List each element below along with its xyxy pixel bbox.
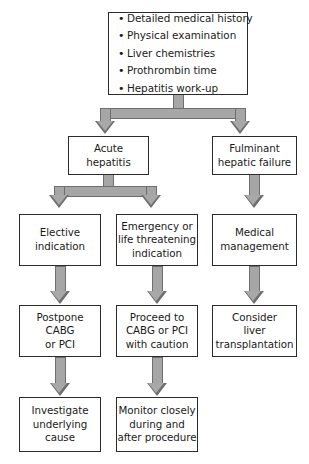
fulminant-hepatic-failure-box[interactable]: Fulminant hepatic failure xyxy=(212,136,297,175)
acute-hepatitis-line: hepatitis xyxy=(86,156,130,170)
workup-bullet-label: Liver chemistries xyxy=(127,45,215,61)
arrowhead-to-transplant xyxy=(244,291,264,304)
workup-bullet-label: Detailed medical history xyxy=(127,10,253,26)
medical-management-line: management xyxy=(220,240,288,254)
arrowhead-to-acute-hepatitis xyxy=(95,121,115,134)
fulminant-failure-line: hepatic failure xyxy=(218,156,291,170)
arrowhead-to-medical-management xyxy=(244,195,264,208)
initial-workup-box[interactable]: • Detailed medical history • Physical ex… xyxy=(108,12,248,95)
investigate-line: cause xyxy=(45,431,75,445)
emergency-line: life threatening xyxy=(118,233,196,247)
proceed-line: Proceed to xyxy=(130,311,184,325)
elective-indication-box[interactable]: Elective indication xyxy=(19,214,101,266)
bullet-dot-icon: • xyxy=(118,28,127,44)
monitor-closely-box[interactable]: Monitor closely during and after procedu… xyxy=(116,397,198,452)
connector-workup-left-drop xyxy=(100,108,111,122)
connector-proceed-to-monitor xyxy=(152,357,163,385)
emergency-indication-box[interactable]: Emergency or life threatening indication xyxy=(116,214,198,266)
transplant-line: liver xyxy=(243,324,265,338)
arrowhead-to-postpone xyxy=(50,291,70,304)
bullet-dot-icon: • xyxy=(118,63,127,79)
connector-postpone-to-investigate xyxy=(55,357,66,385)
connector-fulminant-to-medical xyxy=(249,174,260,196)
workup-bullet-label: Prothrombin time xyxy=(127,62,217,78)
emergency-line: indication xyxy=(132,247,182,261)
connector-emergency-to-proceed xyxy=(152,266,163,292)
connector-workup-split-bar xyxy=(100,108,246,119)
workup-bullet-item: • Hepatitis work-up xyxy=(118,80,218,97)
investigate-underlying-cause-box[interactable]: Investigate underlying cause xyxy=(19,397,101,452)
bullet-dot-icon: • xyxy=(118,81,127,97)
arrowhead-to-emergency xyxy=(141,195,161,208)
postpone-line: Postpone xyxy=(37,311,84,325)
workup-bullet-item: • Liver chemistries xyxy=(118,45,215,62)
connector-medical-to-transplant xyxy=(249,266,260,292)
postpone-line: CABG xyxy=(46,324,75,338)
workup-bullet-label: Physical examination xyxy=(127,27,236,43)
arrowhead-to-fulminant-failure xyxy=(230,121,250,134)
elective-line: Elective xyxy=(40,226,80,240)
connector-workup-right-drop xyxy=(235,108,246,122)
postpone-line: or PCI xyxy=(45,338,75,352)
proceed-line: with caution xyxy=(126,338,189,352)
medical-management-line: Medical xyxy=(235,226,274,240)
postpone-cabg-pci-box[interactable]: Postpone CABG or PCI xyxy=(19,305,101,357)
workup-bullet-item: • Physical examination xyxy=(118,27,236,44)
medical-management-box[interactable]: Medical management xyxy=(212,214,297,266)
connector-elective-to-postpone xyxy=(55,266,66,292)
transplant-line: transplantation xyxy=(215,338,293,352)
elective-line: indication xyxy=(35,240,85,254)
bullet-dot-icon: • xyxy=(118,46,127,62)
arrowhead-to-monitor xyxy=(147,383,167,396)
monitor-line: Monitor closely xyxy=(118,404,195,418)
transplant-line: Consider xyxy=(232,311,277,325)
proceed-line: CABG or PCI xyxy=(126,324,188,338)
workup-bullet-label: Hepatitis work-up xyxy=(127,80,218,96)
proceed-cabg-pci-box[interactable]: Proceed to CABG or PCI with caution xyxy=(116,305,198,357)
acute-hepatitis-box[interactable]: Acute hepatitis xyxy=(68,136,149,175)
emergency-line: Emergency or xyxy=(121,220,192,234)
arrowhead-to-proceed xyxy=(147,291,167,304)
acute-hepatitis-line: Acute xyxy=(94,142,123,156)
investigate-line: Investigate xyxy=(32,404,89,418)
fulminant-failure-line: Fulminant xyxy=(229,142,280,156)
arrowhead-to-elective xyxy=(49,195,69,208)
arrowhead-to-investigate xyxy=(50,383,70,396)
bullet-dot-icon: • xyxy=(118,11,127,27)
workup-bullet-item: • Prothrombin time xyxy=(118,62,217,79)
consider-liver-transplantation-box[interactable]: Consider liver transplantation xyxy=(212,305,297,357)
investigate-line: underlying xyxy=(33,418,88,432)
monitor-line: during and xyxy=(129,418,184,432)
workup-bullet-item: • Detailed medical history xyxy=(118,10,253,27)
monitor-line: after procedure xyxy=(117,431,196,445)
flowchart-canvas: • Detailed medical history • Physical ex… xyxy=(0,0,309,464)
